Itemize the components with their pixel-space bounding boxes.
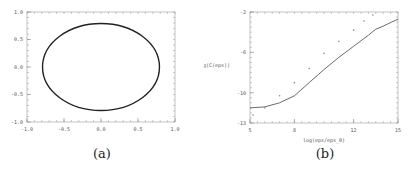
y-tick-label: -6 bbox=[240, 49, 246, 55]
caption-b: (b) bbox=[295, 146, 355, 161]
plot-frame bbox=[250, 12, 398, 123]
y-tick-label: -2 bbox=[240, 9, 246, 15]
dotted-curve-point bbox=[372, 14, 374, 16]
x-tick-label: 15 bbox=[395, 127, 401, 133]
dotted-curve-point bbox=[338, 40, 340, 42]
x-tick-label: 12 bbox=[351, 127, 357, 133]
x-tick-label: 8 bbox=[293, 127, 296, 133]
panel-a: -1.0-0.50.00.51.01.00.50.0-0.5-1.0 (a) bbox=[0, 0, 204, 171]
orbit-ellipse bbox=[43, 24, 160, 111]
caption-a: (a) bbox=[72, 146, 132, 161]
dotted-curve-point bbox=[264, 107, 266, 109]
y-tick-label: -0.5 bbox=[11, 91, 23, 97]
y-tick-label: 0.0 bbox=[14, 64, 23, 70]
y-tick-label: -10 bbox=[237, 90, 246, 96]
panel-b: 581215-2-6-10-13log(eps/eps_0)log(C(eps)… bbox=[204, 0, 408, 171]
x-tick-label: 0.0 bbox=[96, 126, 105, 132]
solid-curve bbox=[250, 19, 398, 108]
y-axis-title: log(C(eps)) bbox=[204, 62, 230, 69]
dotted-curve-point bbox=[294, 82, 296, 84]
y-tick-label: 1.0 bbox=[14, 9, 23, 15]
dotted-curve-point bbox=[308, 68, 310, 70]
y-tick-label: 0.5 bbox=[14, 36, 23, 42]
y-tick-label: -1.0 bbox=[11, 119, 23, 125]
dotted-curve-point bbox=[363, 20, 365, 22]
dotted-curve-point bbox=[279, 95, 281, 97]
x-axis-title: log(eps/eps_0) bbox=[303, 137, 345, 144]
x-tick-label: -1.0 bbox=[21, 126, 33, 132]
plot-frame bbox=[27, 12, 175, 122]
dotted-curve-point bbox=[252, 114, 254, 116]
x-tick-label: -0.5 bbox=[58, 126, 70, 132]
y-tick-label: -13 bbox=[237, 120, 246, 126]
dotted-curve-point bbox=[353, 29, 355, 31]
x-tick-label: 0.5 bbox=[133, 126, 142, 132]
x-tick-label: 5 bbox=[248, 127, 251, 133]
x-tick-label: 1.0 bbox=[170, 126, 179, 132]
dotted-curve-point bbox=[323, 53, 325, 55]
